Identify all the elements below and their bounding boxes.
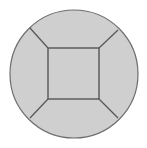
inner-square — [48, 48, 99, 99]
circle-square-diagram — [0, 0, 147, 148]
